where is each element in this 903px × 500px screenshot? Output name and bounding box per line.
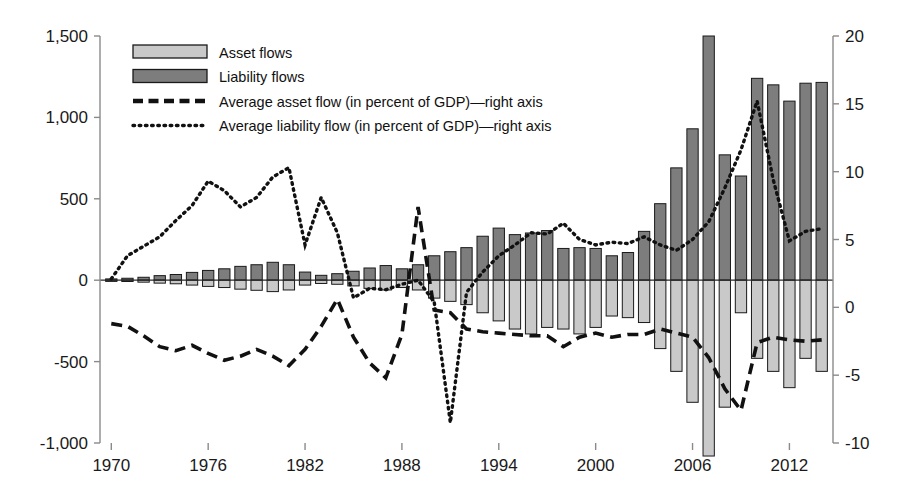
liability-bar [186, 272, 197, 280]
asset-bar [671, 280, 682, 371]
y-tick-label: 1,000 [45, 108, 88, 127]
liability-bar [364, 268, 375, 280]
avg-asset-flow-line [111, 207, 821, 411]
asset-bar [558, 280, 569, 329]
liability-bar [461, 248, 472, 281]
y2-tick-label: -10 [845, 434, 870, 453]
x-tick-label: 2012 [770, 456, 808, 475]
legend: Asset flowsLiability flowsAverage asset … [133, 45, 552, 135]
liability-bar [316, 275, 327, 280]
x-tick-label: 1976 [189, 456, 227, 475]
legend-label: Liability flows [219, 69, 304, 85]
liability-bar [267, 262, 278, 280]
liability-bar [542, 231, 553, 281]
asset-bar [509, 280, 520, 329]
asset-bar [768, 280, 779, 371]
legend-label: Asset flows [219, 45, 292, 61]
liability-bar [606, 256, 617, 280]
liability-bar [574, 248, 585, 281]
x-tick-label: 1970 [92, 456, 130, 475]
liability-bar [622, 253, 633, 281]
liability-bar [283, 265, 294, 280]
x-tick-label: 2000 [577, 456, 615, 475]
asset-bar [638, 280, 649, 322]
liability-bar [800, 83, 811, 280]
liability-bar [332, 274, 343, 281]
liability-bar [816, 82, 827, 280]
asset-bar [299, 280, 310, 285]
asset-bar [703, 280, 714, 456]
asset-bar [219, 280, 230, 287]
liability-bar [445, 252, 456, 280]
liability-bar [671, 168, 682, 280]
liability-bar [558, 248, 569, 280]
liability-bar [784, 101, 795, 280]
liability-bar [525, 233, 536, 280]
y-tick-label: -500 [54, 353, 88, 372]
y2-tick-label: 0 [845, 298, 854, 317]
asset-bar [574, 280, 585, 334]
asset-bar [606, 280, 617, 316]
y2-tick-label: 5 [845, 231, 854, 250]
x-tick-label: 1994 [480, 456, 518, 475]
chart-figure: 1,5001,0005000-500-1,00020151050-5-10197… [0, 0, 903, 500]
asset-bar [655, 280, 666, 348]
liability-bar [203, 270, 214, 280]
liability-bar [687, 129, 698, 280]
liability-bar [219, 269, 230, 280]
liability-bar [719, 155, 730, 280]
legend-swatch [133, 70, 207, 83]
liability-bar [235, 266, 246, 280]
asset-bar [477, 280, 488, 313]
asset-bar [251, 280, 262, 290]
y-tick-label: 0 [79, 271, 88, 290]
legend-label: Average asset flow (in percent of GDP)—r… [219, 94, 543, 110]
y-tick-label: -1,000 [40, 434, 88, 453]
liability-bar [477, 236, 488, 280]
asset-bar [751, 280, 762, 358]
liability-bar [299, 272, 310, 280]
legend-label: Average liability flow (in percent of GD… [219, 118, 552, 134]
liability-bar [396, 269, 407, 280]
y2-tick-label: 20 [845, 27, 864, 46]
flows-chart: 1,5001,0005000-500-1,00020151050-5-10197… [0, 0, 903, 500]
liability-bar [380, 266, 391, 281]
liability-bar [412, 265, 423, 280]
x-tick-label: 1982 [286, 456, 324, 475]
asset-bar [445, 280, 456, 301]
asset-bar [590, 280, 601, 327]
x-tick-label: 1988 [383, 456, 421, 475]
y2-tick-label: -5 [845, 366, 860, 385]
asset-bar [622, 280, 633, 317]
liability-bar [703, 36, 714, 280]
asset-bar [735, 280, 746, 313]
liability-bar [590, 248, 601, 280]
liability-bar [509, 235, 520, 281]
y2-tick-label: 10 [845, 163, 864, 182]
asset-bar [525, 280, 536, 334]
asset-bar [186, 280, 197, 285]
asset-bar [235, 280, 246, 289]
liability-bar [154, 276, 165, 281]
y2-tick-label: 15 [845, 95, 864, 114]
liability-bar [251, 265, 262, 280]
asset-bar [542, 280, 553, 327]
y-tick-label: 1,500 [45, 27, 88, 46]
asset-bar [816, 280, 827, 371]
asset-bar [283, 280, 294, 290]
asset-bar [493, 280, 504, 321]
x-tick-label: 2006 [674, 456, 712, 475]
asset-bar [267, 280, 278, 291]
asset-bar [800, 280, 811, 358]
legend-swatch [133, 45, 207, 58]
liability-bar [170, 275, 181, 281]
liability-bar [735, 176, 746, 280]
y-tick-label: 500 [60, 190, 88, 209]
asset-bar [784, 280, 795, 387]
asset-bar [203, 280, 214, 286]
